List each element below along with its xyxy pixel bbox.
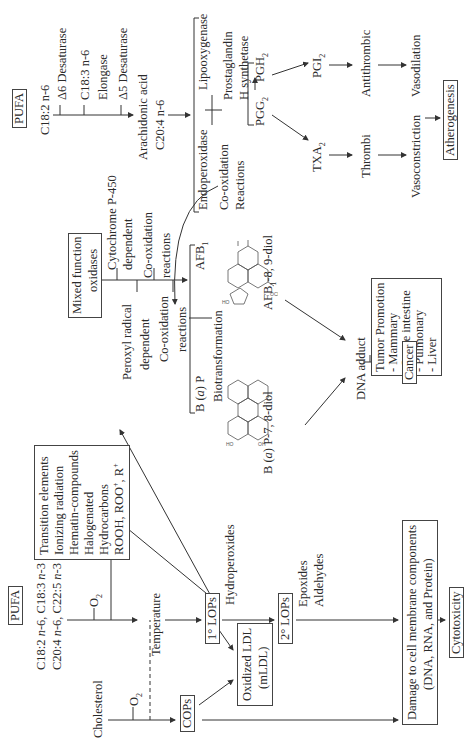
peroxyl-radical-label: Peroxyl radical — [121, 304, 134, 380]
coox-reactions-b-line2: reactions — [176, 307, 189, 352]
cytotoxicity-box: Cytotoxicity — [449, 588, 464, 659]
endoperoxidase-label: Endoperoxidase — [197, 129, 210, 210]
damage-box: Damage to cell membrane components (DNA,… — [402, 520, 438, 725]
lipooxygenase-label: Lipooxygenase — [197, 14, 210, 90]
catalysts-box: Transition elements Ionizing radiation H… — [34, 445, 130, 560]
coox-reactions-b-label: Co-oxidation — [158, 296, 171, 362]
temperature-label: Temperature — [150, 593, 163, 656]
bap-label: B (a) P — [194, 376, 207, 412]
cooxidation-label: Co-oxidation — [218, 144, 231, 210]
cops-box: COPs — [180, 695, 195, 732]
cyp450-label: Cytochrome P-450 — [106, 175, 119, 270]
c18-3-label: C18:3 n-6 — [79, 50, 92, 100]
hydroperoxides-label: Hydroperoxides — [224, 524, 237, 605]
pufa-top-box: PUFA — [12, 89, 27, 128]
coox-reactions-a-line2: reactions — [160, 233, 173, 278]
pathway-diagram: PUFA C18:2 n-6 Δ6 Desaturase C18:3 n-6 E… — [0, 0, 470, 739]
elongase-label: Elongase — [97, 54, 110, 100]
afb1-diol-label: AFB1-8, 9-diol — [262, 235, 275, 310]
dna-adduct-label: DNA adduct — [355, 337, 368, 400]
secondary-lops-box: 2° LOPs — [278, 593, 293, 644]
o2-label-b: O2 — [128, 693, 141, 706]
bap-diol-label: B (a) P-7, 8-diol — [262, 391, 275, 474]
coox-reactions-a-label: Co-oxidation — [142, 212, 155, 278]
txa2-label: TXA2 — [311, 142, 324, 172]
c20-4-label: C20:4 n-6 — [154, 100, 167, 150]
aldehydes-label: Aldehydes — [313, 554, 326, 607]
cholesterol-label: Cholesterol — [92, 680, 105, 738]
d5-desaturase-label: Δ5 Desaturase — [117, 28, 130, 100]
mixed-function-oxidases-box: Mixed function oxidases — [68, 233, 102, 318]
c18-2-label: C18:2 n-6 — [39, 85, 52, 135]
pgi2-label: PGI2 — [311, 54, 324, 78]
cyp450-dependent-label: dependent — [122, 219, 135, 270]
primary-lops-box: 1° LOPs — [205, 593, 220, 644]
afb1-label: AFB1 — [194, 242, 207, 270]
prostaglandin-label: Prostaglandin — [222, 31, 235, 100]
d6-desaturase-label: Δ6 Desaturase — [56, 28, 69, 100]
cancer-box: Cancer — [402, 341, 417, 384]
thrombi-label: Thrombi — [360, 134, 373, 178]
pgh2-label: PGH2 — [254, 53, 267, 82]
peroxyl-dependent-label: dependent — [139, 319, 152, 370]
oxidized-ldl-box: Oxidized LDL (mLDL) — [237, 623, 273, 706]
reactions-label: Reactions — [234, 161, 247, 210]
epoxides-label: Epoxides — [297, 560, 310, 607]
pgg2-label: PGG2 — [254, 97, 267, 126]
vasodilation-label: Vasodilation — [410, 35, 423, 98]
antithrombic-label: Antithrombic — [360, 30, 373, 97]
svg-text:HO: HO — [226, 441, 234, 447]
pufa-bottom-box: PUFA — [8, 586, 23, 625]
h-synthetase-label: H synthetase — [238, 36, 251, 100]
atherogenesis-box: Atherogenesis — [443, 80, 458, 160]
o2-label-a: O2 — [88, 594, 101, 607]
svg-text:HO: HO — [222, 299, 230, 305]
arachidonic-acid-label: Arachidonic acid — [137, 74, 150, 160]
pufa-species-line2: C20:4 n-6, C22:5 n-3 — [51, 563, 64, 670]
pufa-species-line1: C18:2 n-6, C18:3 n-3 — [35, 563, 48, 670]
vasoconstriction-label: Vasoconstriction — [410, 115, 423, 198]
